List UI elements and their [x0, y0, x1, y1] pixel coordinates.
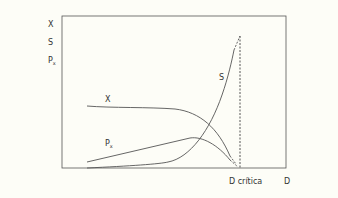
y-label-x: X — [48, 21, 53, 29]
curve-s-dashed — [234, 36, 240, 50]
y-label-px: Px — [48, 57, 56, 66]
x-label-d-critica: D crítica — [229, 178, 262, 186]
y-label-s: S — [48, 39, 53, 47]
curve-px-dashed — [230, 160, 238, 167]
curve-s — [87, 50, 234, 168]
curve-label-s: S — [219, 74, 224, 82]
chart-canvas — [0, 0, 338, 198]
curve-label-px: Px — [105, 140, 113, 149]
curve-label-x: X — [105, 96, 110, 104]
x-axis-label-d: D — [284, 178, 290, 186]
chart-frame — [62, 16, 286, 168]
